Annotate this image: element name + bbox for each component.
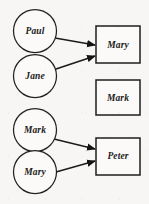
source-node-paul[interactable]: Paul <box>14 10 57 53</box>
source-node-jane[interactable]: Jane <box>14 55 57 98</box>
source-label-paul: Paul <box>26 26 45 36</box>
edge-mary-to-peter <box>56 161 95 172</box>
target-label-mark: Mark <box>106 93 129 103</box>
target-node-mark[interactable]: Mark <box>96 80 140 115</box>
target-label-mary: Mary <box>106 40 129 50</box>
source-label-jane: Jane <box>24 71 45 81</box>
source-label-mary: Mary <box>23 167 46 177</box>
source-node-mark[interactable]: Mark <box>14 109 57 152</box>
target-node-mary[interactable]: Mary <box>96 26 140 63</box>
target-label-peter: Peter <box>107 151 128 161</box>
source-node-mary[interactable]: Mary <box>14 151 57 194</box>
diagram-graphic: Paul Jane Mark Mary Mary Mark Peter <box>0 0 149 204</box>
edge-mark-to-peter <box>54 139 95 149</box>
target-node-peter[interactable]: Peter <box>96 138 140 175</box>
source-label-mark: Mark <box>23 125 46 135</box>
edge-paul-to-mary <box>55 38 95 45</box>
diagram-canvas: Paul Jane Mark Mary Mary Mark Peter <box>0 0 149 204</box>
edge-jane-to-mary <box>53 56 95 70</box>
edge-group <box>53 38 95 172</box>
